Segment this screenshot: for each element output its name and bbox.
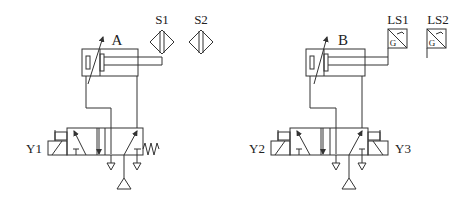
sensor-s2-label: S2	[194, 12, 208, 27]
limit-switch-ls1-letter: G	[390, 38, 397, 48]
solenoid-y1-icon	[48, 130, 67, 155]
solenoid-y1-label: Y1	[26, 141, 42, 156]
limit-switch-ls2-label: LS2	[427, 12, 449, 27]
solenoid-y3-icon	[368, 130, 388, 155]
limit-switch-ls2-letter: G	[429, 38, 436, 48]
spring-icon	[143, 143, 159, 155]
solenoid-y2-label: Y2	[249, 141, 265, 156]
circuit-b: B G LS1 G LS2	[249, 12, 449, 189]
valve-a	[67, 128, 143, 189]
circuit-a: A S1 S2	[26, 12, 213, 189]
pneumatic-circuit-diagram: A S1 S2	[0, 0, 470, 202]
limit-switch-ls1-label: LS1	[387, 12, 409, 27]
valve-b	[290, 128, 368, 189]
solenoid-y2-icon	[271, 130, 290, 155]
cylinder-a-label: A	[112, 32, 123, 48]
sensor-s1-label: S1	[155, 12, 169, 27]
solenoid-y3-label: Y3	[395, 141, 411, 156]
sensor-s2-icon	[189, 30, 213, 54]
cylinder-b-label: B	[338, 32, 348, 48]
sensor-s1-icon	[150, 30, 174, 54]
